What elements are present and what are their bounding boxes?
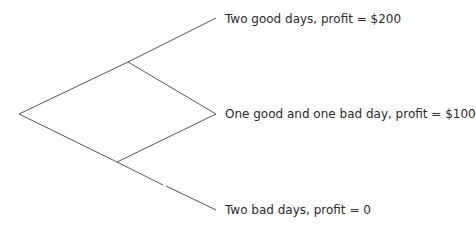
root-to-lower-node xyxy=(19,114,117,162)
lower-node-to-middle-leaf xyxy=(117,114,216,162)
upper-node-to-middle-leaf xyxy=(128,62,216,114)
lower-node-to-bottom-leaf-b xyxy=(166,186,216,210)
outcome-label-two-good-days: Two good days, profit = $200 xyxy=(225,12,401,26)
outcome-label-two-bad-days: Two bad days, profit = 0 xyxy=(225,203,371,217)
lower-node-to-bottom-leaf-a xyxy=(117,162,163,185)
outcome-label-one-good-one-bad: One good and one bad day, profit = $100 xyxy=(225,107,476,121)
upper-node-to-top-leaf xyxy=(128,18,216,62)
root-to-upper-node xyxy=(19,62,128,114)
